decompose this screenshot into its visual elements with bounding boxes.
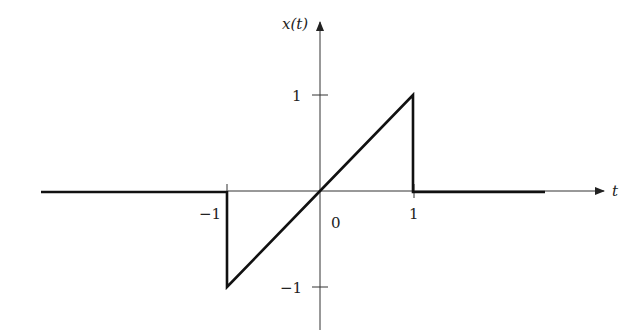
horizontal-axis-label: t bbox=[612, 182, 619, 200]
signal-diagram: x(t) t 0 −1 1 1 −1 bbox=[0, 0, 644, 335]
origin-label: 0 bbox=[331, 214, 341, 232]
vertical-axis-label: x(t) bbox=[282, 15, 308, 33]
tick-label-t-pos: 1 bbox=[409, 205, 419, 223]
tick-label-y-pos: 1 bbox=[292, 87, 302, 105]
tick-label-t-neg: −1 bbox=[199, 205, 221, 223]
tick-label-y-neg: −1 bbox=[280, 279, 302, 297]
